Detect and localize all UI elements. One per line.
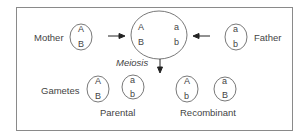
father-allele-bottom: b — [233, 39, 238, 49]
gamete-1-bottom: B — [95, 91, 101, 101]
mother-label: Mother — [34, 32, 64, 43]
zygote-allele-right-top: a — [174, 22, 179, 32]
zygote-allele-right-bottom: b — [174, 37, 179, 47]
gamete-2-bottom: b — [130, 89, 135, 99]
gametes-label: Gametes — [41, 85, 80, 96]
gamete-2-top: a — [130, 75, 135, 85]
gamete-4-top: a — [222, 76, 227, 86]
arrow-left-icon — [193, 34, 210, 39]
father-label: Father — [254, 32, 281, 43]
father-allele-top: a — [233, 24, 238, 34]
mother-allele-bottom: B — [78, 39, 84, 49]
gamete-3-bottom: b — [184, 91, 189, 101]
zygote-cell — [131, 11, 187, 59]
meiosis-label: Meiosis — [116, 57, 148, 68]
gamete-1-top: A — [95, 76, 101, 86]
parental-label: Parental — [100, 107, 135, 118]
gamete-3-top: A — [184, 76, 190, 86]
diagram-shapes — [0, 0, 305, 139]
mother-allele-top: A — [78, 24, 84, 34]
zygote-allele-left-top: A — [138, 22, 144, 32]
gamete-4-bottom: B — [222, 90, 228, 100]
recombinant-label: Recombinant — [180, 107, 236, 118]
arrow-right-icon — [108, 34, 125, 39]
zygote-allele-left-bottom: B — [138, 37, 144, 47]
arrow-down-icon — [158, 59, 163, 73]
